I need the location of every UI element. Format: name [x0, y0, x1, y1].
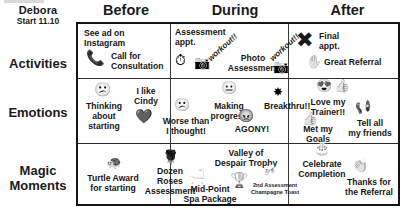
- camera-icon-2: 📷: [273, 60, 289, 73]
- stopwatch-icon: ⏱: [175, 53, 186, 67]
- angry-face-icon: 😡: [238, 109, 254, 122]
- note-great-referral: Great Referral: [324, 58, 381, 68]
- note-worse-than-thought: Worse than I thought!: [162, 117, 210, 137]
- note-celebrate-completion: Celebrate Completion: [294, 160, 350, 180]
- turtle-icon: 🐢: [106, 156, 122, 169]
- heart-icon: 💙: [135, 109, 152, 123]
- grid-divider-emotions-magic: [78, 143, 398, 144]
- persona-name: Debora: [0, 4, 76, 16]
- megaphone-icon: 📢: [355, 100, 371, 113]
- note-tell-all-my-friends: Tell all my friends: [344, 119, 396, 139]
- scan-artifact: [4, 0, 44, 3]
- note-agony: AGONY!: [230, 125, 274, 135]
- row-label-magic-moments: Magic Moments: [0, 163, 76, 193]
- note-i-like-cindy: I like Cindy: [126, 87, 166, 107]
- persona-block: Debora Start 11.10: [0, 4, 76, 27]
- neutral-face-icon: 😐: [221, 81, 237, 94]
- grid-divider-during-after: [288, 24, 289, 204]
- bathtub-icon: 🛁: [188, 169, 205, 183]
- x-mark-icon: ✖: [296, 30, 314, 51]
- row-label-activities: Activities: [0, 56, 76, 71]
- column-header-before: Before: [80, 2, 172, 18]
- column-header-after: After: [300, 2, 395, 18]
- confused-face-icon: 😕: [174, 98, 190, 111]
- heart-eyes-face-icon: 😍: [316, 79, 332, 92]
- cake-icon: 🎂: [314, 142, 330, 155]
- note-turtle-award: Turtle Award for starting: [80, 174, 146, 194]
- note-call-consultation: Call for Consultation: [111, 52, 164, 72]
- phone-icon: 📞: [86, 50, 105, 65]
- note-champagne-toast: 2nd Assessment Champagne Toast: [246, 182, 304, 195]
- starburst-icon: ✸: [273, 86, 283, 98]
- champagne-glasses-icon: 🍻: [262, 164, 277, 176]
- grid-divider-activities-emotions: [78, 78, 398, 79]
- note-see-ad: See ad on Instagram: [84, 29, 125, 49]
- rose-icon: 🌹: [162, 150, 179, 164]
- thumbs-up-icon: 👍: [334, 79, 350, 92]
- note-final-appt: Final appt.: [319, 32, 340, 52]
- column-header-during: During: [180, 2, 290, 18]
- journey-map-page: Debora Start 11.10 Before During After A…: [0, 0, 403, 208]
- row-label-emotions: Emotions: [0, 105, 76, 120]
- clapping-hands-icon: 👏: [352, 159, 368, 172]
- thinking-face-icon: 😕: [94, 82, 111, 96]
- persona-start-date: Start 11.10: [0, 16, 76, 27]
- journey-matrix: See ad on Instagram 📞 Call for Consultat…: [76, 22, 400, 206]
- hand-ok-icon: ✋: [306, 55, 322, 68]
- note-thanks-for-referral: Thanks for the Referral: [340, 178, 398, 198]
- note-thinking-about-starting: Thinking about starting: [78, 102, 130, 131]
